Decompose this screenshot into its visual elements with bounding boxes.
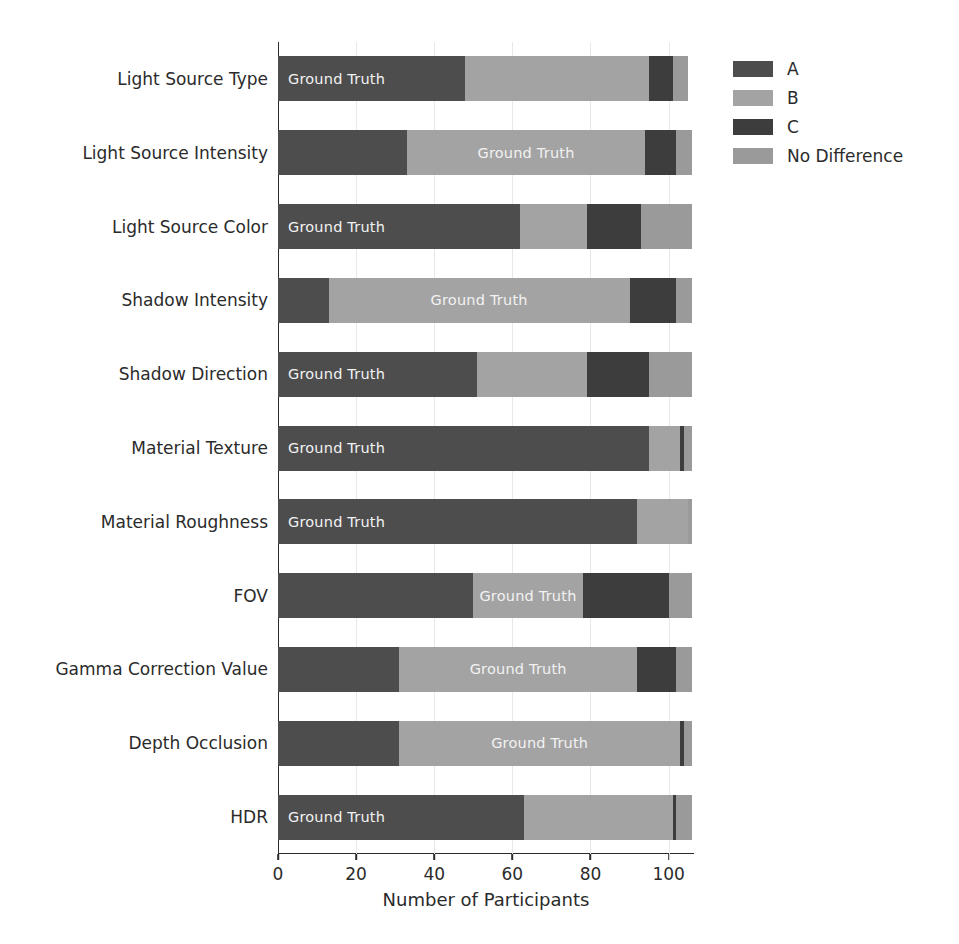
y-tick-label-hdr: HDR [20, 807, 278, 827]
bar-segment-c [587, 204, 642, 249]
legend-swatch-icon [733, 148, 773, 164]
bar-row: Ground Truth [278, 352, 694, 397]
x-tick-label-40: 40 [423, 864, 445, 884]
ground-truth-annotation: Ground Truth [288, 71, 385, 87]
bar-segment-a: Ground Truth [278, 795, 524, 840]
bar-segment-b: Ground Truth [473, 573, 582, 618]
bar-row: Ground Truth [278, 795, 694, 840]
bar-segment-no-difference [688, 499, 692, 544]
bar-segment-c [645, 130, 676, 175]
x-tick-mark-0 [277, 854, 279, 860]
bar-row: Ground Truth [278, 426, 694, 471]
y-tick-label-light-source-color: Light Source Color [20, 217, 278, 237]
legend-label: C [787, 117, 799, 137]
ground-truth-annotation: Ground Truth [288, 809, 385, 825]
x-tick-mark-80 [590, 854, 592, 860]
ground-truth-annotation: Ground Truth [288, 366, 385, 382]
ground-truth-annotation: Ground Truth [288, 514, 385, 530]
bar-row: Ground Truth [278, 721, 694, 766]
y-tick-label-light-source-type: Light Source Type [20, 69, 278, 89]
bar-row: Ground Truth [278, 499, 694, 544]
y-tick-label-depth-occlusion: Depth Occlusion [20, 733, 278, 753]
legend-item-no-difference: No Difference [733, 141, 948, 170]
x-axis-tick-labels: 020406080100 [278, 854, 694, 894]
x-tick-mark-20 [355, 854, 357, 860]
y-tick-label-light-source-intensity: Light Source Intensity [20, 143, 278, 163]
bar-segment-a: Ground Truth [278, 56, 465, 101]
legend-label: B [787, 88, 799, 108]
bar-row: Ground Truth [278, 204, 694, 249]
bar-segment-b: Ground Truth [329, 278, 630, 323]
legend-swatch-icon [733, 61, 773, 77]
bar-segment-c [630, 278, 677, 323]
bar-segment-b [520, 204, 586, 249]
bar-segment-c [637, 647, 676, 692]
y-tick-label-shadow-direction: Shadow Direction [20, 364, 278, 384]
bar-segment-no-difference [649, 352, 692, 397]
legend-item-b: B [733, 83, 948, 112]
bar-segment-no-difference [676, 278, 692, 323]
y-tick-label-material-roughness: Material Roughness [20, 512, 278, 532]
bar-segment-c [583, 573, 669, 618]
bar-row: Ground Truth [278, 56, 694, 101]
ground-truth-annotation: Ground Truth [329, 292, 630, 308]
bar-segment-a: Ground Truth [278, 204, 520, 249]
ground-truth-annotation: Ground Truth [399, 735, 680, 751]
bar-row: Ground Truth [278, 130, 694, 175]
legend-label: No Difference [787, 146, 903, 166]
bar-segment-no-difference [684, 426, 692, 471]
x-tick-mark-60 [512, 854, 514, 860]
bar-segment-no-difference [641, 204, 692, 249]
y-tick-label-fov: FOV [20, 586, 278, 606]
x-tick-label-0: 0 [273, 864, 284, 884]
legend: ABCNo Difference [733, 54, 948, 170]
bar-segment-b [477, 352, 586, 397]
x-tick-label-20: 20 [345, 864, 367, 884]
y-tick-label-material-texture: Material Texture [20, 438, 278, 458]
bar-segment-b: Ground Truth [399, 721, 680, 766]
legend-swatch-icon [733, 90, 773, 106]
bar-segment-c [649, 56, 672, 101]
x-tick-label-100: 100 [652, 864, 684, 884]
bar-segment-b: Ground Truth [399, 647, 637, 692]
x-tick-label-60: 60 [502, 864, 524, 884]
bar-segment-a [278, 130, 407, 175]
ground-truth-annotation: Ground Truth [288, 219, 385, 235]
y-tick-label-shadow-intensity: Shadow Intensity [20, 290, 278, 310]
chart-figure: Ground TruthGround TruthGround TruthGrou… [0, 0, 959, 944]
x-tick-mark-100 [668, 854, 670, 860]
legend-label: A [787, 59, 799, 79]
bar-segment-a: Ground Truth [278, 426, 649, 471]
x-axis-label: Number of Participants [278, 889, 694, 910]
bar-segment-no-difference [684, 721, 692, 766]
bar-segment-a [278, 278, 329, 323]
ground-truth-annotation: Ground Truth [407, 145, 645, 161]
bar-segment-no-difference [673, 56, 689, 101]
bar-segment-a [278, 573, 473, 618]
legend-swatch-icon [733, 119, 773, 135]
bar-segment-b: Ground Truth [407, 130, 645, 175]
bar-segment-no-difference [669, 573, 692, 618]
bar-segment-a: Ground Truth [278, 499, 637, 544]
legend-item-a: A [733, 54, 948, 83]
bar-row: Ground Truth [278, 647, 694, 692]
x-tick-label-80: 80 [580, 864, 602, 884]
bar-segment-a: Ground Truth [278, 352, 477, 397]
bar-segment-a [278, 647, 399, 692]
bar-segment-b [637, 499, 688, 544]
plot-area: Ground TruthGround TruthGround TruthGrou… [278, 42, 694, 854]
bar-segment-no-difference [676, 647, 692, 692]
bar-row: Ground Truth [278, 573, 694, 618]
y-axis-tick-labels: Light Source TypeLight Source IntensityL… [0, 42, 278, 854]
bar-segment-a [278, 721, 399, 766]
bar-segment-b [649, 426, 680, 471]
ground-truth-annotation: Ground Truth [473, 588, 582, 604]
ground-truth-annotation: Ground Truth [399, 661, 637, 677]
bar-segment-no-difference [676, 795, 692, 840]
bar-segment-b [465, 56, 649, 101]
bar-row: Ground Truth [278, 278, 694, 323]
bar-segment-no-difference [676, 130, 692, 175]
x-tick-mark-40 [433, 854, 435, 860]
legend-item-c: C [733, 112, 948, 141]
bar-segment-b [524, 795, 672, 840]
